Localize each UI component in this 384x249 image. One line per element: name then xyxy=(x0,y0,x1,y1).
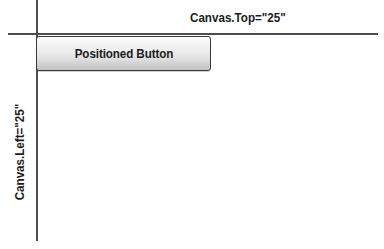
canvas-positioning-diagram: Positioned Button Canvas.Top="25" Canvas… xyxy=(0,0,384,249)
positioned-button-label: Positioned Button xyxy=(74,47,173,61)
positioned-button[interactable]: Positioned Button xyxy=(36,36,211,71)
canvas-left-annotation: Canvas.Left="25" xyxy=(13,104,27,201)
canvas-top-annotation: Canvas.Top="25" xyxy=(190,11,286,25)
canvas-top-axis-line xyxy=(8,33,378,35)
